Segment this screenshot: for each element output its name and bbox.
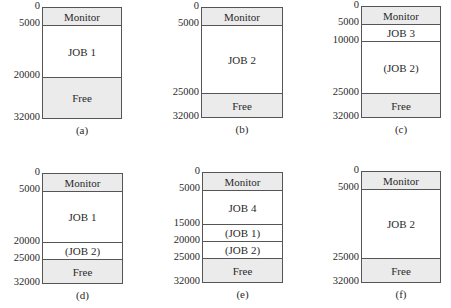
memory-box: MonitorJOB 2Free bbox=[361, 171, 441, 283]
address-tick-label: 20000 bbox=[160, 235, 200, 246]
memory-segment-monitor: Monitor bbox=[202, 8, 282, 25]
address-tick-label: 32000 bbox=[319, 276, 359, 287]
segment-label: Monitor bbox=[224, 176, 260, 188]
segment-label: Free bbox=[391, 100, 411, 112]
diagram-caption: (c) bbox=[386, 123, 416, 135]
memory-box: MonitorJOB 1Free bbox=[42, 7, 122, 119]
memory-segment-job-2: (JOB 2) bbox=[43, 242, 122, 259]
address-tick-label: 15000 bbox=[160, 218, 200, 229]
memory-segment-free: Free bbox=[43, 77, 121, 118]
segment-label: Free bbox=[232, 100, 252, 112]
address-tick-label: 32000 bbox=[160, 276, 200, 287]
segment-label: JOB 1 bbox=[68, 46, 96, 58]
memory-segment-job-1: JOB 1 bbox=[43, 191, 122, 242]
segment-label: Monitor bbox=[64, 177, 100, 189]
memory-segment-monitor: Monitor bbox=[203, 173, 282, 190]
segment-label: (JOB 1) bbox=[225, 227, 260, 239]
address-tick-label: 32000 bbox=[0, 277, 40, 288]
memory-segment-monitor: Monitor bbox=[43, 174, 122, 191]
segment-label: Free bbox=[73, 266, 93, 278]
memory-segment-free: Free bbox=[362, 258, 440, 282]
memory-box: MonitorJOB 2Free bbox=[201, 7, 283, 118]
segment-label: Monitor bbox=[224, 11, 260, 23]
address-tick-label: 5000 bbox=[159, 18, 199, 29]
address-tick-label: 5000 bbox=[0, 184, 40, 195]
address-tick-label: 25000 bbox=[160, 252, 200, 263]
address-tick-label: 0 bbox=[0, 1, 40, 12]
segment-label: Monitor bbox=[383, 175, 419, 187]
address-tick-label: 20000 bbox=[0, 70, 40, 81]
address-tick-label: 25000 bbox=[319, 87, 359, 98]
address-tick-label: 0 bbox=[159, 1, 199, 12]
memory-segment-free: Free bbox=[43, 259, 122, 283]
segment-label: Monitor bbox=[64, 11, 100, 23]
memory-segment-monitor: Monitor bbox=[362, 172, 440, 189]
address-tick-label: 25000 bbox=[0, 253, 40, 264]
memory-segment-job-4: JOB 4 bbox=[203, 190, 282, 224]
address-tick-label: 25000 bbox=[319, 252, 359, 263]
memory-segment-job-3: JOB 3 bbox=[362, 24, 440, 41]
diagram-caption: (d) bbox=[68, 289, 98, 301]
segment-label: JOB 2 bbox=[387, 218, 415, 230]
memory-segment-job-2: JOB 2 bbox=[362, 189, 440, 258]
memory-box: MonitorJOB 3(JOB 2)Free bbox=[361, 6, 441, 118]
memory-segment-job-2: JOB 2 bbox=[202, 25, 282, 93]
address-tick-label: 25000 bbox=[159, 87, 199, 98]
address-tick-label: 32000 bbox=[0, 112, 40, 123]
address-tick-label: 32000 bbox=[319, 111, 359, 122]
address-tick-label: 0 bbox=[160, 166, 200, 177]
memory-box: MonitorJOB 4(JOB 1)(JOB 2)Free bbox=[202, 172, 283, 283]
segment-label: JOB 3 bbox=[387, 27, 415, 39]
diagram-caption: (e) bbox=[228, 288, 258, 300]
memory-segment-free: Free bbox=[203, 258, 282, 282]
memory-segment-job-1: (JOB 1) bbox=[203, 224, 282, 241]
address-tick-label: 5000 bbox=[160, 183, 200, 194]
diagram-caption: (a) bbox=[67, 124, 97, 136]
segment-label: JOB 2 bbox=[228, 54, 256, 66]
address-tick-label: 5000 bbox=[319, 17, 359, 28]
memory-segment-job-2: (JOB 2) bbox=[203, 241, 282, 258]
address-tick-label: 10000 bbox=[319, 35, 359, 46]
address-tick-label: 0 bbox=[0, 167, 40, 178]
address-tick-label: 32000 bbox=[159, 111, 199, 122]
segment-label: (JOB 2) bbox=[225, 244, 260, 256]
address-tick-label: 0 bbox=[319, 0, 359, 11]
segment-label: Free bbox=[233, 265, 253, 277]
diagram-caption: (f) bbox=[386, 288, 416, 300]
segment-label: JOB 4 bbox=[229, 202, 257, 214]
segment-label: Free bbox=[72, 92, 92, 104]
memory-segment-monitor: Monitor bbox=[362, 7, 440, 24]
segment-label: Free bbox=[391, 265, 411, 277]
memory-segment-monitor: Monitor bbox=[43, 8, 121, 25]
memory-box: MonitorJOB 1(JOB 2)Free bbox=[42, 173, 123, 284]
address-tick-label: 5000 bbox=[319, 182, 359, 193]
address-tick-label: 0 bbox=[319, 165, 359, 176]
segment-label: (JOB 2) bbox=[383, 62, 418, 74]
segment-label: JOB 1 bbox=[69, 211, 97, 223]
segment-label: Monitor bbox=[383, 10, 419, 22]
memory-segment-job-2: (JOB 2) bbox=[362, 41, 440, 93]
segment-label: (JOB 2) bbox=[65, 245, 100, 257]
memory-segment-free: Free bbox=[362, 93, 440, 117]
memory-segment-free: Free bbox=[202, 93, 282, 117]
address-tick-label: 5000 bbox=[0, 18, 40, 29]
diagram-caption: (b) bbox=[227, 123, 257, 135]
memory-segment-job-1: JOB 1 bbox=[43, 25, 121, 77]
address-tick-label: 20000 bbox=[0, 236, 40, 247]
